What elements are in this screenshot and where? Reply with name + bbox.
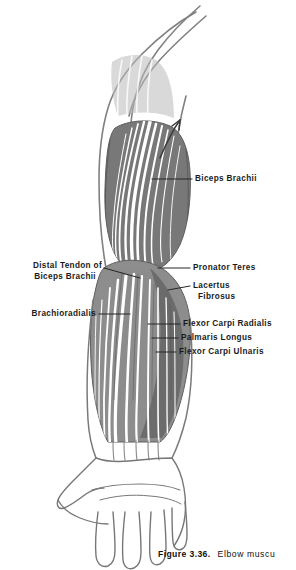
label-distal-tendon-biceps: Distal Tendon of Biceps Brachii [4,261,102,282]
label-flexor-carpi-ulnaris: Flexor Carpi Ulnaris [179,347,264,358]
label-distal-tendon-biceps-line2: Biceps Brachii [4,272,102,283]
figure-caption-text: Elbow muscu [211,549,276,559]
finger-middle [123,512,141,569]
finger-little [172,502,187,550]
upper-arm-shading [111,55,174,118]
label-pronator-teres-text: Pronator Teres [193,263,256,272]
figure-page: Biceps Brachii Pronator Teres Lacertus F… [0,0,296,570]
label-pronator-teres: Pronator Teres [193,263,256,274]
figure-caption-number: Figure 3.36. [158,549,211,559]
label-palmaris-longus-text: Palmaris Longus [181,333,252,342]
wrist-tendons [113,440,159,460]
biceps-muscle-group [105,121,191,272]
forearm-muscle-group [91,260,191,460]
label-lacertus-fibrosus-line1: Lacertus [193,281,230,290]
palm-crease-1 [92,484,180,490]
label-brachioradialis-text: Brachioradialis [32,309,96,318]
label-lacertus-fibrosus: Lacertus Fibrosus [193,281,235,302]
elbow-musculature-illustration [0,0,296,570]
label-biceps-brachii-text: Biceps Brachii [195,174,257,183]
palm-crease-2 [100,495,181,504]
label-biceps-brachii: Biceps Brachii [195,174,257,185]
label-flexor-carpi-radialis: Flexor Carpi Radialis [183,319,272,330]
label-lacertus-fibrosus-line2: Fibrosus [193,292,235,303]
label-brachioradialis: Brachioradialis [4,309,96,320]
label-flexor-carpi-radialis-text: Flexor Carpi Radialis [183,319,272,328]
label-distal-tendon-biceps-line1: Distal Tendon of [33,261,102,270]
figure-caption: Figure 3.36.Elbow muscu [158,549,296,559]
label-palmaris-longus: Palmaris Longus [181,333,252,344]
label-flexor-carpi-ulnaris-text: Flexor Carpi Ulnaris [179,347,264,356]
thumb-outline [58,500,108,524]
palm-outline [57,458,104,509]
finger-index [96,512,115,567]
